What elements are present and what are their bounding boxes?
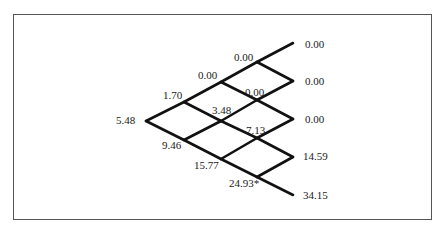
binomial-tree-lines xyxy=(0,0,448,237)
node-s3-uud-value: 0.00 xyxy=(245,87,264,98)
node-s3-uuu-value: 0.00 xyxy=(234,52,253,63)
node-s2-ud-value: 3.48 xyxy=(212,105,231,116)
node-root-value: 5.48 xyxy=(116,115,135,126)
node-s1-up-value: 1.70 xyxy=(163,90,182,101)
node-s3-ddd-value: 24.93* xyxy=(229,178,259,189)
node-s1-down-value: 9.46 xyxy=(162,140,181,151)
node-s4-0-value: 0.00 xyxy=(305,39,324,50)
node-s4-4-value: 34.15 xyxy=(303,190,328,201)
node-s2-uu-value: 0.00 xyxy=(198,70,217,81)
node-s3-udd-value: 7.13 xyxy=(246,125,265,136)
node-s4-1-value: 0.00 xyxy=(305,76,324,87)
node-s4-3-value: 14.59 xyxy=(303,151,328,162)
node-s2-dd-value: 15.77 xyxy=(194,160,219,171)
node-s4-2-value: 0.00 xyxy=(305,114,324,125)
